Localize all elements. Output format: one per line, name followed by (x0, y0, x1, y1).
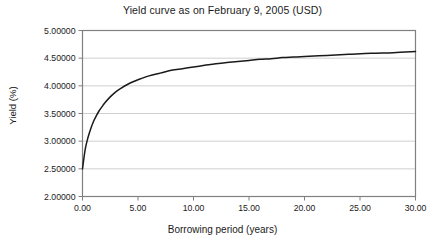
y-tick-label: 4.00000 (44, 81, 76, 91)
y-tick-label: 2.00000 (44, 192, 76, 202)
gridlines (83, 58, 416, 169)
data-series-line (83, 52, 416, 169)
x-tick-label: 10.00 (183, 203, 205, 213)
yield-curve-chart: Yield curve as on February 9, 2005 (USD)… (0, 0, 445, 247)
y-tick-label: 4.50000 (44, 53, 76, 63)
x-tick-label: 20.00 (294, 203, 316, 213)
plot-area: 2.000002.500003.000003.500004.000004.500… (0, 0, 445, 247)
x-tick-label: 5.00 (130, 203, 147, 213)
x-tick-label: 15.00 (238, 203, 260, 213)
x-tick-label: 30.00 (405, 203, 427, 213)
y-tick-label: 3.50000 (44, 109, 76, 119)
x-axis-label: Borrowing period (years) (0, 224, 445, 235)
y-axis-label: Yield (%) (7, 66, 18, 146)
x-axis-ticks: 0.005.0010.0015.0020.0025.0030.00 (74, 197, 426, 213)
series-line-yield-curve (83, 52, 416, 169)
y-tick-label: 2.50000 (44, 164, 76, 174)
y-tick-label: 3.00000 (44, 136, 76, 146)
y-tick-label: 5.00000 (44, 26, 76, 36)
y-axis-ticks: 2.000002.500003.000003.500004.000004.500… (44, 26, 82, 202)
x-tick-label: 25.00 (349, 203, 371, 213)
x-tick-label: 0.00 (74, 203, 91, 213)
